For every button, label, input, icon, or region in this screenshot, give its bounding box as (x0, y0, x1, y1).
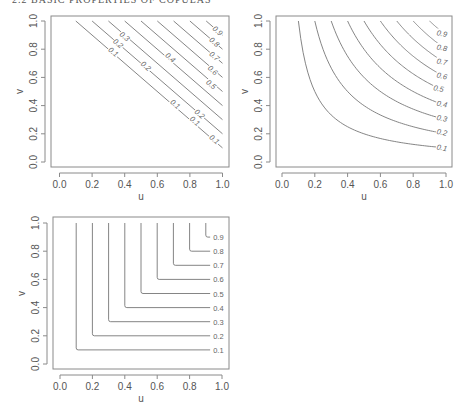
contour-label: 0.8 (213, 247, 223, 256)
contour-label: 0.9 (213, 233, 223, 242)
contour-lines (76, 21, 223, 148)
contour-lines (298, 21, 438, 147)
contour-line-0.4 (125, 21, 223, 106)
y-axis-title: v (239, 89, 250, 94)
x-axis-title: u (138, 393, 144, 404)
x-tick-label: 0.8 (183, 179, 197, 190)
plot-frame (276, 16, 452, 167)
x-tick-label: 0.2 (308, 179, 322, 190)
y-tick-label: 0.6 (30, 272, 41, 286)
contour-label: 0.1 (436, 142, 448, 153)
x-tick-label: 0.0 (53, 179, 67, 190)
contour-label: 0.2 (139, 59, 153, 73)
contour-line-0.2 (315, 21, 439, 132)
y-tick-label: 0.6 (253, 70, 264, 84)
y-tick-label: 0.4 (30, 300, 41, 314)
y-tick-label: 0.4 (28, 98, 39, 112)
y-tick-label: 0.0 (30, 357, 41, 371)
figure-canvas: 0.00.20.40.60.81.0u0.00.20.40.60.81.0v0.… (0, 0, 466, 412)
contour-label: 0.7 (213, 261, 223, 270)
x-axis-title: u (138, 191, 144, 202)
contour-plot-upper-bound: 0.00.20.40.60.81.0u0.00.20.40.60.81.0v0.… (16, 216, 229, 404)
x-tick-label: 0.8 (406, 179, 420, 190)
y-tick-label: 0.2 (28, 126, 39, 140)
contour-plot-lower-bound: 0.00.20.40.60.81.0u0.00.20.40.60.81.0v0.… (14, 14, 230, 202)
y-tick-label: 1.0 (30, 216, 41, 230)
contour-label: 0.6 (213, 275, 223, 284)
y-axis: 0.00.20.40.60.81.0v (14, 14, 45, 169)
plot-frame (51, 16, 229, 167)
contour-line-0.3 (331, 21, 438, 118)
y-tick-label: 0.8 (253, 42, 264, 56)
contour-plot-product: 0.00.20.40.60.81.0u0.00.20.40.60.81.0v0.… (239, 14, 453, 202)
y-tick-label: 1.0 (28, 14, 39, 28)
y-tick-label: 0.0 (253, 155, 264, 169)
y-tick-label: 0.4 (253, 98, 264, 112)
x-tick-label: 1.0 (439, 179, 453, 190)
y-axis-title: v (16, 291, 27, 296)
contour-line-0.5 (141, 223, 212, 294)
x-tick-label: 0.0 (53, 381, 67, 392)
y-tick-label: 0.2 (253, 126, 264, 140)
x-tick-label: 0.4 (118, 381, 132, 392)
contour-lines (76, 223, 212, 350)
x-tick-label: 0.8 (183, 381, 197, 392)
contour-line-0.1 (76, 21, 223, 148)
y-axis: 0.00.20.40.60.81.0v (16, 216, 47, 371)
y-axis-title: v (14, 89, 25, 94)
contour-labels: 0.10.20.30.40.50.60.70.80.9 (210, 233, 224, 355)
contour-label: 0.1 (207, 133, 221, 147)
x-tick-label: 1.0 (216, 179, 230, 190)
contour-label: 0.1 (213, 346, 223, 355)
contour-line-0.1 (76, 223, 212, 350)
x-tick-label: 0.2 (85, 179, 99, 190)
x-tick-label: 0.6 (373, 179, 387, 190)
contour-label: 0.5 (213, 290, 223, 299)
contour-label: 0.1 (168, 97, 182, 111)
contour-line-0.4 (348, 21, 439, 103)
x-axis-title: u (361, 191, 367, 202)
contour-label: 0.4 (213, 304, 223, 313)
contour-line-0.7 (173, 223, 212, 265)
x-axis: 0.00.20.40.60.81.0u (53, 173, 230, 202)
y-tick-label: 0.6 (28, 70, 39, 84)
y-tick-label: 0.0 (28, 155, 39, 169)
contour-label: 0.2 (213, 332, 223, 341)
contour-label: 0.7 (207, 49, 221, 63)
x-axis: 0.00.20.40.60.81.0u (53, 375, 229, 404)
y-tick-label: 0.2 (30, 328, 41, 342)
contour-label: 0.5 (204, 78, 218, 92)
contour-line-0.8 (413, 21, 438, 44)
x-tick-label: 0.6 (150, 179, 164, 190)
x-axis: 0.00.20.40.60.81.0u (275, 173, 453, 202)
y-tick-label: 0.8 (30, 244, 41, 258)
contour-line-0.7 (397, 21, 439, 59)
x-tick-label: 0.4 (118, 179, 132, 190)
contour-label: 0.4 (163, 51, 177, 65)
x-tick-label: 0.4 (341, 179, 355, 190)
y-tick-label: 1.0 (253, 14, 264, 28)
x-tick-label: 0.0 (275, 179, 289, 190)
contour-label: 0.4 (436, 99, 448, 110)
contour-label: 0.6 (206, 64, 220, 78)
x-tick-label: 1.0 (215, 381, 229, 392)
y-tick-label: 0.8 (28, 42, 39, 56)
contour-line-0.6 (380, 21, 438, 73)
y-axis: 0.00.20.40.60.81.0v (239, 14, 270, 169)
contour-line-0.3 (109, 223, 213, 322)
contour-line-0.5 (364, 21, 439, 88)
contour-label: 0.8 (207, 35, 221, 49)
contour-label: 0.3 (213, 318, 223, 327)
x-tick-label: 0.2 (85, 381, 99, 392)
x-tick-label: 0.6 (150, 381, 164, 392)
contour-labels: 0.10.20.30.40.50.60.70.80.9 (432, 28, 449, 153)
